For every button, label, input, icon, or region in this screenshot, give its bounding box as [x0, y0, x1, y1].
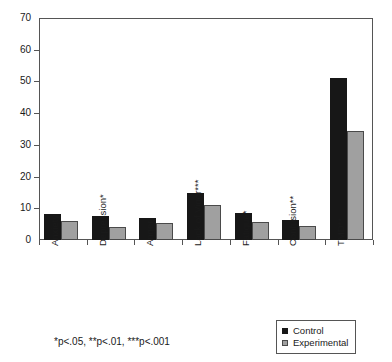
- legend-item-control: Control: [282, 325, 348, 337]
- x-tick-mark: [87, 240, 88, 245]
- y-tick-label: 10: [20, 203, 31, 213]
- y-tick-label: 70: [20, 13, 31, 23]
- bars-layer: [39, 18, 373, 240]
- x-axis-label: Lack of Vigor***: [193, 180, 203, 246]
- bar-experimental: [109, 227, 126, 240]
- bar-control: [330, 78, 347, 240]
- x-tick-mark: [278, 240, 279, 245]
- y-tick-label: 50: [20, 76, 31, 86]
- x-axis-label: Confusion**: [288, 196, 298, 246]
- legend-swatch-control-icon: [282, 328, 288, 334]
- x-axis-label: Anger: [145, 221, 155, 246]
- legend-label-control: Control: [293, 326, 324, 336]
- legend-swatch-experimental-icon: [282, 340, 288, 346]
- bar-experimental: [61, 221, 78, 240]
- x-axis-label: Anxiety: [50, 215, 60, 246]
- y-axis: 010203040506070: [0, 0, 39, 258]
- bar-experimental: [299, 226, 316, 240]
- bar-chart-figure: 010203040506070 AnxietyDepression*AngerL…: [0, 0, 392, 362]
- y-tick-label: 60: [20, 45, 31, 55]
- x-tick-mark: [230, 240, 231, 245]
- y-tick-label: 0: [25, 235, 31, 245]
- x-tick-mark: [373, 240, 374, 245]
- y-tick-label: 40: [20, 108, 31, 118]
- significance-footnote: *p<.05, **p<.01, ***p<.001: [54, 336, 170, 348]
- x-tick-mark: [182, 240, 183, 245]
- bar-experimental: [252, 222, 269, 240]
- y-tick-label: 30: [20, 140, 31, 150]
- x-axis-label: TMD**: [336, 218, 346, 246]
- x-tick-mark: [325, 240, 326, 245]
- y-tick-label: 20: [20, 172, 31, 182]
- x-axis-label: Depression*: [98, 194, 108, 246]
- bar-experimental: [204, 205, 221, 240]
- x-tick-mark: [39, 240, 40, 245]
- bar-experimental: [156, 223, 173, 240]
- chart-legend: Control Experimental: [276, 320, 356, 354]
- bar-experimental: [347, 131, 364, 240]
- legend-item-experimental: Experimental: [282, 337, 348, 349]
- x-axis-label: Fatigue*: [241, 211, 251, 246]
- x-tick-mark: [134, 240, 135, 245]
- legend-label-experimental: Experimental: [293, 338, 348, 348]
